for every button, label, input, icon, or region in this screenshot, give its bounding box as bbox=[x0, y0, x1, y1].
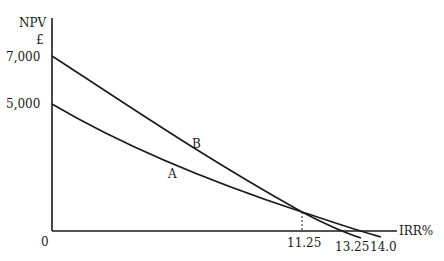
y-tick-5000: 5,000 bbox=[6, 97, 40, 111]
series-a-label: A bbox=[167, 167, 177, 181]
npv-irr-chart: NPV £ 7,000 5,000 0 11.25 13.25 14.0 IRR… bbox=[0, 0, 444, 261]
x-tick-13-25: 13.25 bbox=[335, 240, 369, 254]
curve-b bbox=[52, 56, 361, 238]
origin-label: 0 bbox=[41, 235, 49, 249]
x-axis-label: IRR% bbox=[399, 224, 433, 238]
x-tick-14-0: 14.0 bbox=[370, 240, 397, 254]
series-b-label: B bbox=[192, 137, 201, 151]
y-axis-unit: £ bbox=[36, 33, 44, 47]
y-axis-label: NPV bbox=[19, 16, 47, 30]
x-tick-11-25: 11.25 bbox=[287, 236, 321, 250]
curve-a bbox=[52, 104, 381, 237]
y-tick-7000: 7,000 bbox=[6, 50, 40, 64]
